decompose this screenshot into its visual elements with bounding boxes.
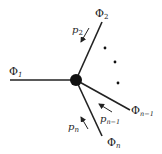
ellipsis-dot — [114, 61, 117, 64]
label-p2: p2 — [72, 24, 83, 37]
label-pn: pn — [68, 121, 79, 134]
leg-phi-n-minus-1 — [76, 80, 130, 110]
leg-phi-n — [76, 80, 102, 136]
momentum-arrow-p-n-minus-1 — [99, 104, 112, 112]
label-phi1: Φ1 — [9, 65, 23, 79]
label-phi-n: Φn — [107, 136, 121, 150]
center-vertex — [70, 74, 82, 86]
momentum-arrow-pn — [81, 117, 88, 129]
label-p-n-minus-1: pn−1 — [100, 113, 120, 126]
ellipsis-dot — [104, 47, 107, 50]
feynman-vertex-diagram: Φ1 Φ2 p2 Φn−1 pn−1 pn Φn — [0, 0, 162, 154]
ellipsis-dot — [117, 82, 120, 85]
label-phi2: Φ2 — [95, 7, 109, 21]
label-phi-n-minus-1: Φn−1 — [131, 104, 154, 118]
